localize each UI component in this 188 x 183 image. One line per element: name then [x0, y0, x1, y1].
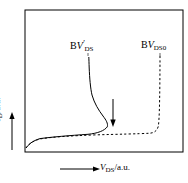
y-axis-label-symbol: I [0, 118, 2, 121]
x-axis-label: VDS/a.u. [100, 163, 130, 174]
breakdown-voltage-figure: BV′DS BVDS0 VDS/a.u. ID/a.u. [0, 0, 188, 183]
annotation-bvds0: BVDS0 [141, 40, 166, 52]
annotation-bvds-prime-subscript: DS [85, 45, 94, 53]
x-axis-label-units: /a.u. [114, 162, 130, 172]
annotation-bvds-prime: BV′DS [70, 40, 93, 53]
y-axis-arrow-icon [9, 112, 14, 150]
y-axis-label-subscript: D [0, 113, 4, 118]
plot-frame [25, 10, 183, 152]
y-axis-label-units: /a.u. [0, 98, 2, 114]
annotation-bvds-prime-prefix: B [70, 40, 77, 51]
plot-canvas [0, 0, 188, 183]
annotation-bvds0-subscript: DS0 [154, 44, 166, 52]
annotation-bvds0-prefix: B [141, 39, 148, 50]
y-axis-label: ID/a.u. [0, 98, 4, 122]
x-axis-arrow-icon [60, 166, 100, 171]
